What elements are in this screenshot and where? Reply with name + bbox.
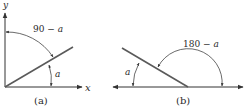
arc-a-small <box>49 65 51 86</box>
x-axis-label: x <box>85 82 91 93</box>
arc-180-minus-a <box>158 49 222 86</box>
y-axis-label: y <box>2 0 9 10</box>
angle-diagram: y x 90 − a a (a) 180 − a a (b) <box>0 0 246 109</box>
panel-b: 180 − a a (b) <box>113 39 243 106</box>
diagonal-line-b <box>122 48 188 87</box>
panel-a: y x 90 − a a (a) <box>2 0 91 106</box>
diagonal-line-a <box>5 47 73 87</box>
caption-a: (a) <box>34 95 48 106</box>
angle-label-180-minus-a: 180 − a <box>183 39 219 49</box>
arc-a-b <box>133 63 139 86</box>
angle-label-a: a <box>55 69 60 79</box>
caption-b: (b) <box>176 95 190 106</box>
angle-label-90-minus-a: 90 − a <box>33 24 63 34</box>
angle-label-a-b: a <box>125 67 130 77</box>
arc-90-minus-a <box>6 32 53 57</box>
